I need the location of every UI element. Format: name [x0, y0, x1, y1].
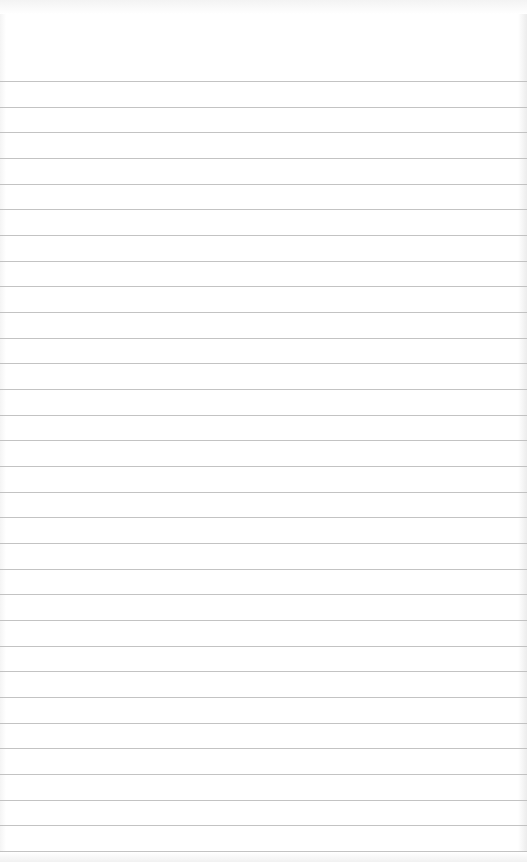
ruled-line [0, 440, 527, 441]
ruled-line [0, 825, 527, 826]
ruled-line [0, 671, 527, 672]
ruled-line [0, 543, 527, 544]
ruled-line [0, 286, 527, 287]
ruled-line [0, 209, 527, 210]
ruled-line [0, 261, 527, 262]
ruled-line [0, 466, 527, 467]
ruled-line [0, 569, 527, 570]
ruled-line [0, 107, 527, 108]
ruled-line [0, 620, 527, 621]
ruled-line [0, 158, 527, 159]
ruled-line [0, 338, 527, 339]
paper-top-edge [0, 0, 527, 14]
ruled-line [0, 312, 527, 313]
ruled-line [0, 492, 527, 493]
paper-bottom-edge [0, 852, 527, 862]
ruled-line [0, 81, 527, 82]
ruled-line [0, 774, 527, 775]
ruled-line [0, 184, 527, 185]
ruled-line [0, 800, 527, 801]
ruled-line [0, 748, 527, 749]
ruled-line [0, 363, 527, 364]
ruled-line [0, 594, 527, 595]
ruled-line [0, 389, 527, 390]
ruled-line [0, 697, 527, 698]
ruled-line [0, 646, 527, 647]
ruled-line [0, 132, 527, 133]
ruled-line [0, 517, 527, 518]
ruled-line [0, 415, 527, 416]
ruled-line [0, 723, 527, 724]
ruled-line [0, 235, 527, 236]
lined-paper [0, 0, 527, 862]
